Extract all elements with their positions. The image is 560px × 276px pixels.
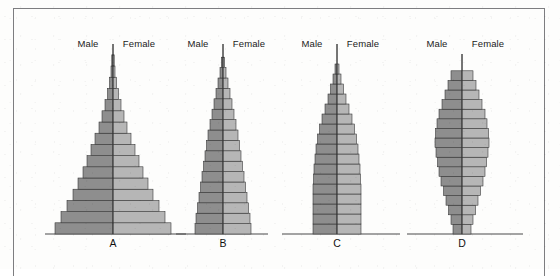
bar-female-d-5 <box>462 176 483 186</box>
bar-female-a-3 <box>113 189 153 200</box>
bar-female-a-10 <box>113 111 124 122</box>
bar-female-d-13 <box>462 100 482 110</box>
bar-male-b-5 <box>202 172 223 182</box>
bar-female-b-3 <box>223 192 247 202</box>
bar-female-c-8 <box>337 144 358 154</box>
bar-female-b-13 <box>223 88 230 98</box>
bar-female-c-7 <box>337 154 359 164</box>
female-label-b: Female <box>233 38 265 49</box>
bar-male-b-11 <box>212 109 223 119</box>
pyramid-panel-c: MaleFemaleC <box>302 38 380 249</box>
bar-female-c-2 <box>337 204 361 214</box>
bar-male-b-9 <box>208 130 223 140</box>
bar-female-a-7 <box>113 144 135 155</box>
bar-male-a-13 <box>110 77 114 88</box>
bar-male-a-3 <box>73 189 113 200</box>
bar-female-c-13 <box>337 94 346 104</box>
bar-female-b-1 <box>223 213 250 223</box>
bar-male-b-4 <box>201 182 224 192</box>
bar-female-d-14 <box>462 90 479 100</box>
bar-female-a-4 <box>113 178 148 189</box>
bar-male-c-8 <box>316 144 337 154</box>
bar-male-c-10 <box>320 124 338 134</box>
bar-female-c-6 <box>337 164 360 174</box>
male-label-d: Male <box>427 38 448 49</box>
bar-female-c-14 <box>337 84 344 94</box>
bar-male-a-9 <box>99 122 113 133</box>
bar-male-c-6 <box>314 164 337 174</box>
bar-male-b-10 <box>210 120 223 130</box>
bar-male-c-12 <box>325 104 337 114</box>
bar-female-a-1 <box>113 212 165 223</box>
panel-letter-c: C <box>333 237 341 249</box>
bar-male-a-0 <box>55 223 113 234</box>
bar-male-d-10 <box>436 128 463 138</box>
pyramid-panel-d: MaleFemaleD <box>427 38 505 249</box>
bar-female-b-11 <box>223 109 234 119</box>
bar-male-d-7 <box>438 157 463 167</box>
bar-male-a-10 <box>102 111 113 122</box>
bar-male-b-3 <box>199 192 223 202</box>
bar-male-b-0 <box>195 224 223 234</box>
pyramid-panel-b: MaleFemaleB <box>188 38 266 249</box>
bar-female-d-1 <box>462 215 473 225</box>
female-label-c: Female <box>347 38 379 49</box>
bar-male-d-0 <box>453 224 462 234</box>
female-label-a: Female <box>123 38 155 49</box>
bar-male-d-13 <box>442 100 462 110</box>
bar-female-c-5 <box>337 174 361 184</box>
bar-female-b-10 <box>223 120 236 130</box>
bar-female-a-8 <box>113 133 131 144</box>
bar-male-a-12 <box>108 88 114 99</box>
bar-female-d-12 <box>462 109 485 119</box>
bar-male-c-11 <box>322 114 337 124</box>
bar-female-d-9 <box>462 138 489 148</box>
bar-male-d-12 <box>439 109 462 119</box>
bar-male-c-0 <box>313 224 337 234</box>
bar-male-c-5 <box>314 174 338 184</box>
bar-male-a-1 <box>61 212 113 223</box>
bar-female-c-12 <box>337 104 349 114</box>
bar-female-a-2 <box>113 200 159 211</box>
bar-female-c-15 <box>337 74 341 84</box>
bar-male-d-11 <box>437 119 462 129</box>
bar-female-c-0 <box>337 224 361 234</box>
bar-female-a-12 <box>113 88 119 99</box>
pyramid-panel-a: MaleFemaleA <box>55 38 171 249</box>
bar-female-a-11 <box>113 100 121 111</box>
bar-male-d-1 <box>451 215 462 225</box>
bar-female-b-4 <box>223 182 246 192</box>
bar-male-c-2 <box>313 204 337 214</box>
female-label-d: Female <box>472 38 504 49</box>
bar-female-c-3 <box>337 194 361 204</box>
bar-female-d-8 <box>462 148 488 158</box>
bar-male-b-14 <box>218 78 223 88</box>
bar-female-d-15 <box>462 80 476 90</box>
bar-male-d-5 <box>441 176 462 186</box>
bar-female-a-6 <box>113 156 139 167</box>
bar-male-c-3 <box>313 194 337 204</box>
bar-female-d-10 <box>462 128 489 138</box>
panel-letter-b: B <box>219 237 226 249</box>
bar-male-d-2 <box>449 205 463 215</box>
bar-female-b-9 <box>223 130 238 140</box>
bar-female-a-9 <box>113 122 127 133</box>
bar-male-d-3 <box>446 196 462 206</box>
bar-male-b-1 <box>196 213 223 223</box>
bar-male-b-13 <box>216 88 223 98</box>
bar-female-b-7 <box>223 151 241 161</box>
bar-female-d-2 <box>462 205 476 215</box>
bar-female-c-4 <box>337 184 361 194</box>
bar-female-d-0 <box>462 224 471 234</box>
bar-male-b-6 <box>204 161 224 171</box>
bar-male-a-7 <box>91 144 113 155</box>
bar-male-a-4 <box>78 178 113 189</box>
bar-male-b-8 <box>207 140 224 150</box>
bar-female-c-10 <box>337 124 355 134</box>
bar-male-c-9 <box>318 134 338 144</box>
bar-female-a-0 <box>113 223 171 234</box>
bar-male-a-11 <box>105 100 113 111</box>
bar-female-d-11 <box>462 119 487 129</box>
bar-male-a-2 <box>67 200 113 211</box>
